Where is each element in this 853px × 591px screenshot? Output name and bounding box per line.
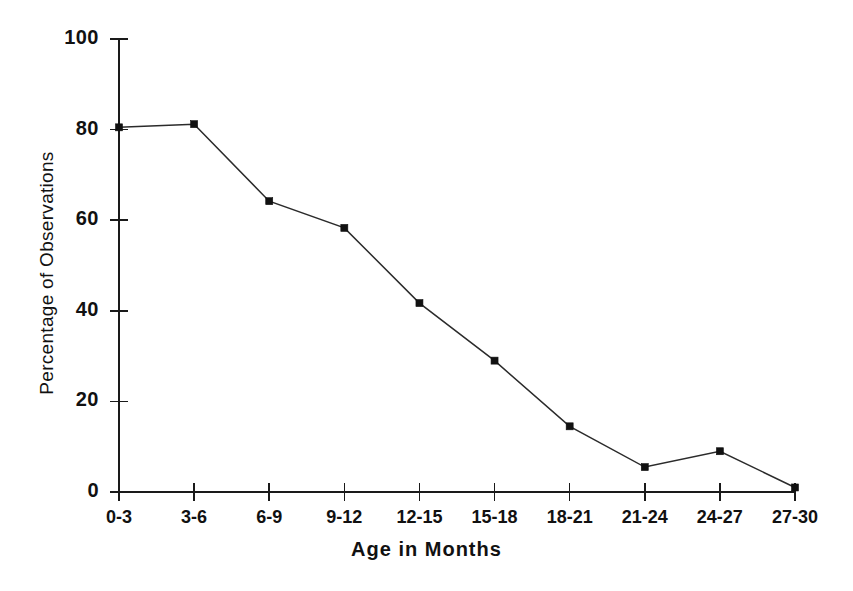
data-point-marker — [641, 464, 648, 471]
data-point-marker — [116, 124, 123, 131]
data-point-marker — [341, 224, 348, 231]
data-point-marker — [792, 484, 799, 491]
data-point-marker — [191, 121, 198, 128]
line-chart: 020406080100 0-33-66-99-1212-1515-1818-2… — [0, 0, 853, 591]
x-axis-title: Age in Months — [0, 538, 853, 561]
x-tick-label: 27-30 — [750, 507, 840, 528]
chart-plot-area — [0, 0, 853, 591]
y-tick-label: 100 — [9, 26, 99, 49]
y-tick-label: 0 — [9, 479, 99, 502]
y-axis-title: Percentage of Observations — [36, 123, 58, 423]
data-point-marker — [566, 423, 573, 430]
data-point-marker — [266, 198, 273, 205]
data-point-markers — [116, 121, 799, 491]
data-point-marker — [491, 357, 498, 364]
chart-axes — [119, 39, 795, 492]
data-point-marker — [416, 300, 423, 307]
data-point-marker — [716, 448, 723, 455]
data-series-line — [119, 124, 795, 487]
